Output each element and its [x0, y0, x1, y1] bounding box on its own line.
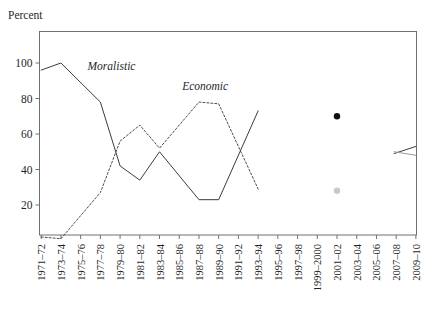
x-axis-tick-label: 1979–80 — [115, 244, 126, 281]
y-axis-tick-label: 20 — [21, 199, 33, 211]
x-axis-tick-label: 1971–72 — [36, 244, 47, 281]
economic-2007-10-segment — [394, 152, 416, 156]
x-axis-ticks — [41, 235, 416, 239]
x-axis-tick-label: 1975–76 — [76, 244, 87, 281]
line-chart-plot: 20406080100 1971–721973–741975–761977–78… — [0, 0, 434, 317]
y-axis-tick-label: 100 — [15, 57, 33, 69]
x-axis-tick-label: 1983–84 — [155, 243, 166, 281]
x-axis-tick-label: 1989–90 — [214, 244, 225, 281]
x-axis-tick-label: 1995–96 — [273, 244, 284, 281]
moralistic-2001-02-point — [334, 113, 340, 119]
x-axis-tick-label: 2001–02 — [332, 244, 343, 281]
series-inline-labels: MoralisticEconomic — [87, 60, 229, 92]
y-axis-tick-label: 60 — [21, 128, 33, 140]
series-label-economic: Economic — [181, 80, 228, 92]
x-axis-tick-label: 1993–94 — [253, 243, 264, 281]
data-series-segments — [394, 146, 416, 155]
x-axis-tick-labels: 1971–721973–741975–761977–781979–801981–… — [36, 243, 422, 291]
series-label-moralistic: Moralistic — [87, 60, 136, 72]
series-line-economic — [41, 102, 258, 239]
x-axis-tick-label: 1997–98 — [293, 244, 304, 281]
x-axis-tick-label: 2005–06 — [371, 244, 382, 281]
chart-figure: Percent 20406080100 1971–721973–741975–7… — [0, 0, 434, 317]
x-axis-tick-label: 1977–78 — [95, 244, 106, 281]
data-point-markers — [334, 113, 340, 194]
x-axis-tick-label: 1987–88 — [194, 244, 205, 281]
x-axis-tick-label: 1985–86 — [174, 244, 185, 281]
y-axis-tick-label: 40 — [21, 164, 33, 176]
y-axis-tick-labels: 20406080100 — [15, 57, 33, 211]
x-axis-tick-label: 2003–04 — [352, 243, 363, 281]
x-axis-tick-label: 1999–2000 — [312, 244, 323, 291]
x-axis-tick-label: 2009–10 — [411, 244, 422, 281]
x-axis-tick-label: 2007–08 — [391, 244, 402, 281]
x-axis-tick-label: 1973–74 — [56, 243, 67, 281]
x-axis-tick-label: 1981–82 — [135, 244, 146, 281]
y-axis-tick-label: 80 — [21, 93, 33, 105]
x-axis-tick-label: 1991–92 — [233, 244, 244, 281]
y-axis-ticks — [36, 63, 40, 205]
economic-2001-02-point — [334, 188, 340, 194]
